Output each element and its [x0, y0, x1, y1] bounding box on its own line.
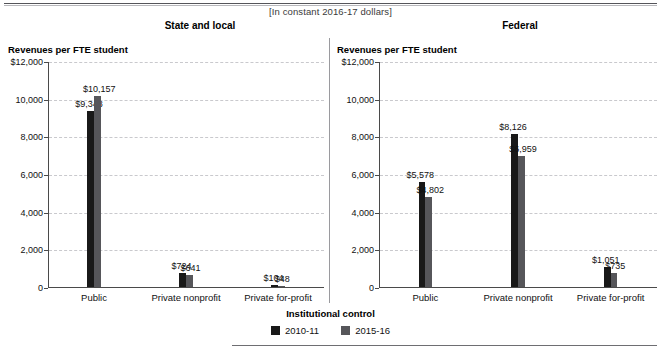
x-category-label: Private for-profit — [577, 292, 645, 303]
y-tick-label: 4,000 — [351, 208, 374, 218]
bar-value-label: $4,802 — [417, 185, 445, 195]
bar-value-label: $641 — [181, 263, 201, 273]
y-axis-title-right: Revenues per FTE student — [337, 44, 457, 55]
bottom-rule — [232, 345, 657, 346]
figure-root: [In constant 2016-17 dollars] State and … — [0, 0, 661, 354]
plot-area-left: 02,0004,0006,0008,00010,000$12,000$9,348… — [48, 62, 324, 288]
bar-group: $9,348$10,157Public — [48, 61, 140, 287]
bar-group: $104$48Private for-profit — [232, 61, 324, 287]
bar-value-label: $735 — [605, 261, 625, 271]
chart-panel-state-and-local: 02,0004,0006,0008,00010,000$12,000$9,348… — [0, 58, 328, 306]
legend-title: Institutional control — [0, 308, 661, 319]
top-rule — [4, 3, 657, 4]
bar: $6,959 — [518, 156, 525, 287]
y-tick-label: $12,000 — [341, 57, 374, 67]
bar: $641 — [186, 275, 193, 287]
bar-value-label: $48 — [275, 274, 290, 284]
x-category-label: Public — [412, 292, 438, 303]
bar: $10,157 — [94, 96, 101, 287]
legend-label: 2015-16 — [355, 325, 390, 336]
legend-item-2015-16: 2015-16 — [341, 325, 390, 336]
y-tick-label: 8,000 — [20, 132, 43, 142]
bar: $4,802 — [425, 197, 432, 287]
bar: $5,578 — [419, 182, 426, 287]
y-tick-label: 8,000 — [351, 132, 374, 142]
bar-value-label: $10,157 — [83, 84, 116, 94]
panel-title-state-and-local: State and local — [110, 20, 290, 31]
y-tick-label: 4,000 — [20, 208, 43, 218]
y-axis-title-left: Revenues per FTE student — [8, 44, 128, 55]
x-category-label: Private nonprofit — [151, 292, 220, 303]
bar-group: $5,578$4,802Public — [379, 61, 472, 287]
legend-swatch-icon — [271, 326, 280, 335]
x-category-label: Private for-profit — [244, 292, 312, 303]
y-tick-label: 6,000 — [351, 170, 374, 180]
bar-group: $1,051$735Private for-profit — [564, 61, 657, 287]
y-tick-mark — [375, 288, 379, 289]
bar-group: $8,126$6,959Private nonprofit — [472, 61, 565, 287]
panel-divider — [329, 38, 330, 303]
y-tick-label: $12,000 — [10, 57, 43, 67]
bar: $104 — [271, 285, 278, 287]
bar: $735 — [611, 273, 618, 287]
chart-panel-federal: 02,0004,0006,0008,00010,000$12,000$5,578… — [331, 58, 661, 306]
x-category-label: Private nonprofit — [483, 292, 552, 303]
x-axis-line — [48, 287, 324, 288]
bar: $48 — [278, 286, 285, 287]
units-note: [In constant 2016-17 dollars] — [0, 6, 661, 17]
legend: 2010-11 2015-16 — [0, 325, 661, 336]
bar-value-label: $6,959 — [509, 144, 537, 154]
panel-title-federal: Federal — [430, 20, 610, 31]
y-tick-label: 2,000 — [20, 245, 43, 255]
clipped-header-text — [8, 0, 408, 3]
legend-label: 2010-11 — [285, 325, 319, 336]
bar-value-label: $8,126 — [499, 122, 527, 132]
bar: $724 — [179, 273, 186, 287]
legend-swatch-icon — [341, 326, 350, 335]
bar: $9,348 — [87, 111, 94, 287]
y-tick-label: 0 — [38, 283, 43, 293]
y-tick-mark — [44, 288, 48, 289]
legend-item-2010-11: 2010-11 — [271, 325, 319, 336]
bar-group: $724$641Private nonprofit — [140, 61, 232, 287]
y-tick-label: 2,000 — [351, 245, 374, 255]
plot-area-right: 02,0004,0006,0008,00010,000$12,000$5,578… — [379, 62, 657, 288]
x-category-label: Public — [81, 292, 107, 303]
bar: $8,126 — [511, 134, 518, 287]
bar-value-label: $5,578 — [407, 170, 435, 180]
y-tick-label: 0 — [369, 283, 374, 293]
y-tick-label: 6,000 — [20, 170, 43, 180]
x-axis-line — [379, 287, 657, 288]
y-tick-label: 10,000 — [346, 95, 374, 105]
y-tick-label: 10,000 — [15, 95, 43, 105]
